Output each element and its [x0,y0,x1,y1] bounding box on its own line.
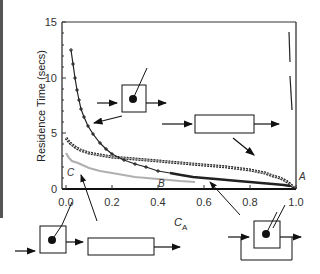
svg-text:1.0: 1.0 [288,196,303,208]
diagram-cstr-pfr [15,225,180,255]
x-axis-label: C A [174,216,188,232]
x-axis-label-sub: A [182,223,188,232]
diagram-cstr [94,68,166,123]
svg-text:15: 15 [45,16,57,28]
series-b [69,48,296,189]
asymptote-line [289,32,292,110]
svg-text:0.6: 0.6 [196,196,211,208]
svg-text:0: 0 [51,183,57,195]
diagram-pfr [162,115,279,155]
label-c: C [67,167,75,178]
svg-text:0.4: 0.4 [150,196,165,208]
x-axis-label-main: C [174,216,182,228]
x-tick-labels: 0.0 0.2 0.4 0.6 0.8 1.0 [58,196,303,208]
svg-text:0.8: 0.8 [242,196,257,208]
y-axis-label: Residence Time (secs) [35,50,47,162]
svg-text:0.2: 0.2 [104,196,119,208]
svg-text:0.0: 0.0 [58,196,73,208]
diagram-cstr-recycle [228,212,301,260]
svg-text:5: 5 [51,127,57,139]
chart: 0 5 10 15 0.0 0.2 0.4 0.6 0.8 1.0 Reside… [0,0,320,274]
label-b: B [158,178,165,189]
label-a: A [298,171,306,182]
